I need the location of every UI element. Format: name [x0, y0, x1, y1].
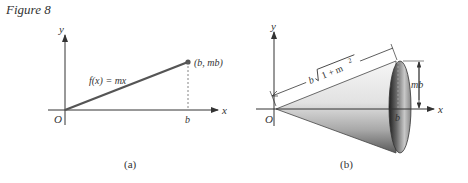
- panel-b-caption: (b): [340, 158, 353, 170]
- panel-b-b-label: b: [395, 112, 400, 123]
- panel-a-function-label: f(x) = mx: [89, 75, 127, 87]
- panel-a-caption: (a): [124, 158, 136, 170]
- panel-a: y x O b f(x) = mx (b, mb): [48, 23, 227, 125]
- panel-a-endpoint-label: (b, mb): [194, 57, 224, 69]
- figure-canvas: y x O b f(x) = mx (b, mb) b 1 + m: [0, 0, 468, 183]
- panel-a-b-label: b: [185, 114, 190, 125]
- panel-b-x-label: x: [437, 103, 443, 115]
- panel-b-radius-label: mb: [411, 79, 423, 90]
- panel-b: b 1 + m 2 y x O b mb: [256, 20, 443, 153]
- panel-b-cone-base: [389, 61, 411, 153]
- panel-a-y-label: y: [58, 23, 64, 35]
- panel-a-x-label: x: [221, 104, 227, 116]
- panel-a-function-line: [65, 62, 188, 110]
- panel-b-y-label: y: [270, 20, 276, 32]
- panel-a-origin-label: O: [54, 113, 62, 125]
- panel-b-origin-label: O: [265, 113, 273, 125]
